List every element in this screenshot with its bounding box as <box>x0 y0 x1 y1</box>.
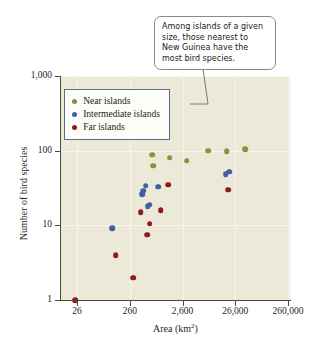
gridline-vertical <box>183 76 184 300</box>
legend-item: Far islands <box>72 121 160 134</box>
data-point <box>147 221 153 227</box>
data-point <box>158 207 164 213</box>
callout-annotation: Among islands of a given size, those nea… <box>154 16 276 70</box>
x-axis-tick-label: 26 <box>72 307 82 317</box>
gridline-horizontal <box>60 76 290 77</box>
legend-item-label: Far islands <box>83 123 124 133</box>
y-axis-tick <box>55 76 61 77</box>
data-point <box>145 232 151 238</box>
y-axis-tick-label: 1,000 <box>31 71 52 81</box>
legend-item-label: Near islands <box>83 97 130 107</box>
legend-item-label: Intermediate islands <box>83 110 160 120</box>
legend-item: Near islands <box>72 95 160 108</box>
gridline-horizontal <box>60 151 290 152</box>
y-axis-tick <box>55 225 61 226</box>
legend-marker-icon <box>72 125 77 130</box>
y-axis-line <box>60 76 61 301</box>
x-axis-tick-label: 260,000 <box>273 307 304 317</box>
gridline-vertical <box>288 76 289 300</box>
legend-item: Intermediate islands <box>72 108 160 121</box>
data-point <box>109 225 115 231</box>
y-axis-tick-label: 1 <box>47 295 52 305</box>
data-point <box>226 169 232 175</box>
x-axis-tick-label: 26,000 <box>222 307 248 317</box>
gridline-vertical <box>235 76 236 300</box>
x-axis-label: Area (km2) <box>60 322 291 334</box>
data-point <box>205 148 211 154</box>
data-point <box>184 158 190 164</box>
legend-marker-icon <box>72 99 77 104</box>
gridline-horizontal <box>60 225 290 226</box>
data-point <box>167 155 173 161</box>
x-axis-tick-label: 260 <box>123 307 137 317</box>
data-point <box>130 275 136 281</box>
y-axis-tick <box>55 151 61 152</box>
legend: Near islandsIntermediate islandsFar isla… <box>64 89 170 140</box>
legend-marker-icon <box>72 112 77 117</box>
x-axis-tick-label: 2,600 <box>172 307 193 317</box>
data-point <box>225 187 231 193</box>
data-point <box>166 182 172 188</box>
data-point <box>242 147 248 153</box>
data-point <box>224 149 230 155</box>
x-axis-line <box>60 300 291 301</box>
data-point <box>113 252 119 258</box>
data-point <box>150 152 156 158</box>
y-axis-tick-label: 10 <box>43 220 53 230</box>
data-point <box>140 192 146 198</box>
y-axis-tick-label: 100 <box>38 146 52 156</box>
data-point <box>150 163 156 169</box>
y-axis-tick <box>55 300 61 301</box>
y-axis-label: Number of bird species <box>18 109 29 279</box>
data-point <box>147 202 153 208</box>
data-point <box>138 209 144 215</box>
data-point <box>155 184 161 190</box>
bird-species-area-scatter-figure: Number of bird species Area (km2) Near i… <box>0 0 329 345</box>
